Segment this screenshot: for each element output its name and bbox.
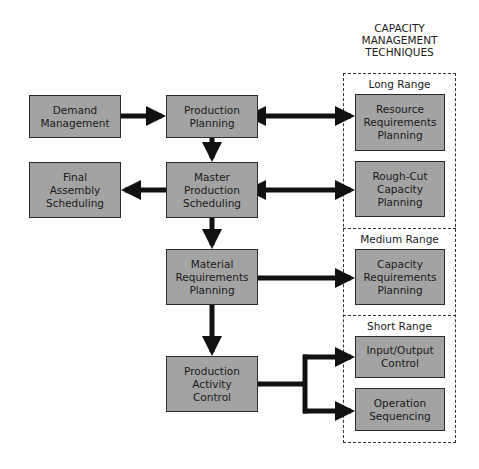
operation-sequencing-label: Operation Sequencing	[369, 397, 431, 423]
operation-sequencing-box: Operation Sequencing	[355, 388, 445, 431]
production-planning-label: Production Planning	[184, 104, 240, 130]
production-activity-control-label: Production Activity Control	[184, 365, 240, 404]
rough-cut-capacity-planning-box: Rough-Cut Capacity Planning	[355, 161, 445, 217]
input-output-control-label: Input/Output Control	[366, 344, 433, 370]
final-assembly-scheduling-box: Final Assembly Scheduling	[29, 162, 121, 218]
material-requirements-planning-label: Material Requirements Planning	[176, 258, 249, 297]
capacity-requirements-planning-label: Capacity Requirements Planning	[364, 258, 437, 297]
demand-management-box: Demand Management	[29, 95, 121, 138]
production-activity-control-box: Production Activity Control	[166, 356, 258, 412]
material-requirements-planning-box: Material Requirements Planning	[166, 249, 258, 305]
resource-requirements-planning-label: Resource Requirements Planning	[364, 103, 437, 142]
input-output-control-box: Input/Output Control	[355, 336, 445, 378]
demand-management-label: Demand Management	[40, 104, 109, 130]
production-planning-box: Production Planning	[166, 95, 258, 138]
capacity-requirements-planning-box: Capacity Requirements Planning	[355, 249, 445, 305]
master-production-scheduling-label: Master Production Scheduling	[183, 171, 241, 210]
resource-requirements-planning-box: Resource Requirements Planning	[355, 94, 445, 151]
rough-cut-capacity-planning-label: Rough-Cut Capacity Planning	[372, 170, 427, 209]
final-assembly-scheduling-label: Final Assembly Scheduling	[46, 171, 104, 210]
master-production-scheduling-box: Master Production Scheduling	[166, 162, 258, 218]
